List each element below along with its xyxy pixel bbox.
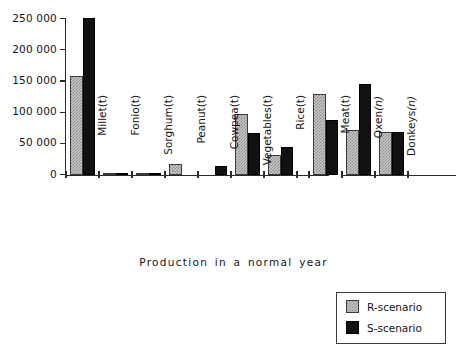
x-axis-label-unit: (t): [162, 95, 175, 107]
x-axis-label-name: Donkeys: [405, 111, 418, 156]
x-axis-label-rice: (t)Rice: [294, 95, 320, 181]
x-axis-label-name: Vegetables: [261, 107, 274, 165]
x-axis-label-name: Rice: [294, 107, 307, 129]
legend-swatch-r-scenario: [346, 300, 359, 313]
x-axis-label-unit: (t): [96, 95, 109, 107]
bar-meat-s-scenario: [326, 120, 339, 175]
legend-item-s-scenario: S-scenario: [346, 321, 422, 334]
x-axis-label-unit: (n): [372, 95, 385, 111]
x-axis-label-name: Meat: [339, 107, 352, 133]
legend-label-s-scenario: S-scenario: [367, 322, 422, 334]
x-axis-label-name: Fonio: [129, 107, 142, 135]
x-axis-label-name: Oxen: [372, 111, 385, 138]
x-axis-label-peanut: (t)Peanut: [195, 95, 221, 181]
x-axis-label-name: Millet: [96, 107, 109, 135]
x-axis-label-name: Cowpea: [228, 107, 241, 149]
legend-item-r-scenario: R-scenario: [346, 300, 422, 313]
x-axis-label-meat: (t)Meat: [339, 95, 365, 181]
bar-millet-r-scenario: [70, 76, 83, 175]
x-axis-label-oxen: (n)Oxen: [372, 95, 398, 181]
bar-chart-figure: 050 000100 000150 000200 000250 000 (t)M…: [0, 0, 467, 354]
x-axis-label-unit: (t): [228, 95, 241, 107]
y-axis-tick-label: 100 000: [12, 105, 57, 117]
x-axis-label-unit: (t): [195, 95, 208, 107]
x-axis-label-sorghum: (t)Sorghum: [162, 95, 188, 181]
y-axis-tick-label: 150 000: [12, 74, 57, 86]
x-axis-label-unit: (t): [339, 95, 352, 107]
legend-swatch-s-scenario: [346, 321, 359, 334]
y-axis-tick-label: 250 000: [12, 12, 57, 24]
x-axis-label-unit: (t): [129, 95, 142, 107]
x-axis-label-cowpea: (t)Cowpea: [228, 95, 254, 181]
x-axis-label-fonio: (t)Fonio: [129, 95, 155, 181]
legend-box: R-scenario S-scenario: [336, 292, 446, 344]
x-axis-label-name: Peanut: [195, 107, 208, 143]
x-axis-label-name: Sorghum: [162, 107, 175, 154]
x-axis-label-unit: (t): [294, 95, 307, 107]
y-axis-tick-label: 0: [50, 168, 57, 180]
x-axis-label-vegetables: (t)Vegetables: [261, 95, 287, 181]
y-axis-tick-label: 200 000: [12, 43, 57, 55]
bar-millet-s-scenario: [83, 18, 96, 175]
x-axis-label-millet: (t)Millet: [96, 95, 122, 181]
y-axis-tick-label: 50 000: [19, 136, 57, 148]
x-axis-label-donkeys: (n)Donkeys: [405, 95, 431, 181]
x-axis-title: Production in a normal year: [0, 256, 467, 268]
x-axis-label-unit: (t): [261, 95, 274, 107]
x-axis-label-unit: (n): [405, 95, 418, 111]
legend-label-r-scenario: R-scenario: [367, 301, 422, 313]
